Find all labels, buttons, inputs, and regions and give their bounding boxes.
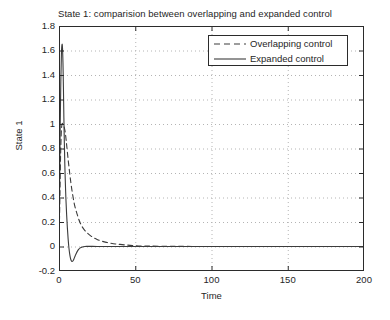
legend-dashed-line-icon <box>213 39 247 49</box>
y-tick-label: 0.6 <box>42 167 55 178</box>
y-tick-label: 0.8 <box>42 142 55 153</box>
legend-item-overlapping-control[interactable]: Overlapping control <box>209 36 349 51</box>
x-tick-label: 200 <box>356 274 372 285</box>
y-tick-label: 1.6 <box>42 44 55 55</box>
y-tick-label: 1.8 <box>42 20 55 31</box>
y-axis-label: State 1 <box>13 106 24 166</box>
y-tick-label: 1.2 <box>42 93 55 104</box>
y-tick-label: 0.2 <box>42 216 55 227</box>
x-tick-label: 100 <box>204 274 220 285</box>
y-tick-label: -0.2 <box>39 265 55 276</box>
y-tick-label: 0 <box>50 240 55 251</box>
x-axis-label: Time <box>59 290 364 301</box>
x-tick-label: 50 <box>130 274 141 285</box>
y-tick-label: 0.4 <box>42 191 55 202</box>
legend-label-overlapping-control: Overlapping control <box>250 39 332 49</box>
figure-canvas: State 1: comparision between overlapping… <box>0 0 390 320</box>
legend-solid-line-icon <box>213 54 247 64</box>
chart-title: State 1: comparision between overlapping… <box>0 8 390 19</box>
x-tick-label: 150 <box>280 274 296 285</box>
y-tick-label: 1 <box>50 118 55 129</box>
legend-label-expanded-control: Expanded control <box>250 54 324 64</box>
y-tick-label: 1.4 <box>42 69 55 80</box>
x-tick-label: 0 <box>56 274 61 285</box>
legend[interactable]: Overlapping control Expanded control <box>208 35 348 66</box>
legend-item-expanded-control[interactable]: Expanded control <box>209 51 349 66</box>
